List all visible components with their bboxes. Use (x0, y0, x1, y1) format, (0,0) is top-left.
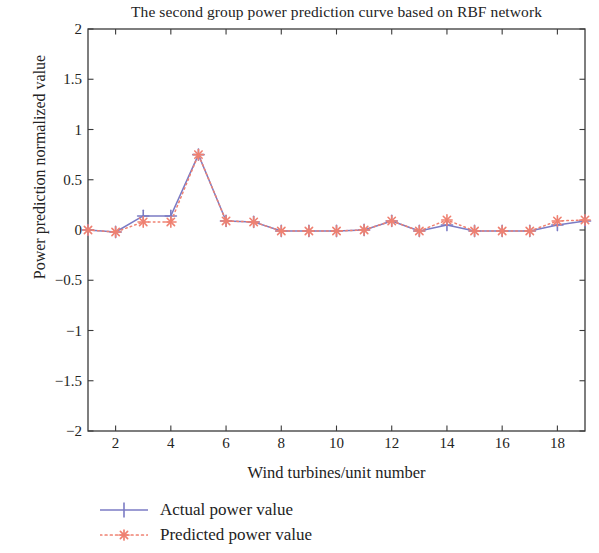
series-line (88, 155, 585, 232)
legend-label-predicted: Predicted power value (148, 525, 312, 545)
data-point-marker (221, 216, 231, 226)
data-point-marker (359, 225, 369, 235)
y-tick-label: −2 (36, 423, 82, 440)
y-tick-label: 2 (36, 21, 82, 38)
x-tick-label: 12 (372, 435, 412, 452)
chart-figure: The second group power prediction curve … (0, 0, 599, 553)
data-point-marker (248, 217, 258, 227)
y-tick-label: −1.5 (36, 372, 82, 389)
x-tick-label: 16 (482, 435, 522, 452)
data-point-marker (110, 227, 120, 237)
data-point-marker (580, 215, 590, 225)
y-tick-label: 0.5 (36, 171, 82, 188)
data-point-marker (414, 226, 424, 236)
legend-swatch-predicted (100, 524, 148, 546)
y-tick-label: 1 (36, 121, 82, 138)
legend-swatch-actual (100, 499, 148, 521)
legend-item-predicted: Predicted power value (100, 522, 500, 547)
data-point-marker (552, 216, 562, 226)
x-tick-label: 18 (537, 435, 577, 452)
y-tick-label: 0 (36, 222, 82, 239)
legend-item-actual: Actual power value (100, 497, 500, 522)
data-series (82, 149, 590, 238)
data-point-marker (469, 226, 479, 236)
data-point-marker (83, 225, 93, 235)
data-point-marker (442, 215, 452, 225)
data-point-marker (166, 217, 176, 227)
data-point-marker (525, 226, 535, 236)
data-point-marker (304, 226, 314, 236)
data-point-marker (138, 217, 148, 227)
data-point-marker (193, 149, 203, 159)
legend-label-actual: Actual power value (148, 500, 293, 520)
y-tick-label: −0.5 (36, 272, 82, 289)
y-tick-label: 1.5 (36, 71, 82, 88)
plot-canvas (0, 0, 599, 553)
x-tick-label: 2 (96, 435, 136, 452)
x-tick-label: 6 (206, 435, 246, 452)
chart-legend: Actual power value Predicted power value (100, 497, 500, 547)
data-point-marker (276, 226, 286, 236)
x-tick-label: 14 (427, 435, 467, 452)
x-tick-label: 8 (261, 435, 301, 452)
data-point-marker (497, 226, 507, 236)
data-point-marker (387, 216, 397, 226)
series-line (88, 155, 585, 232)
data-point-marker (331, 226, 341, 236)
x-tick-label: 4 (151, 435, 191, 452)
x-tick-label: 10 (317, 435, 357, 452)
y-tick-label: −1 (36, 322, 82, 339)
